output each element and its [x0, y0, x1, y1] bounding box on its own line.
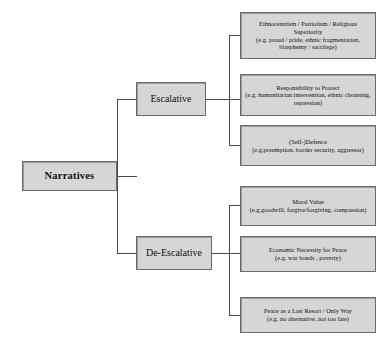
- connector-deescalative-stub: [212, 253, 230, 254]
- leaf-example: (e.g.goodwill, forgive/forgiving, compas…: [244, 206, 372, 214]
- leaf-example: (e.g.preemption, border security, aggres…: [244, 146, 372, 154]
- leaf-title: (Self-)Defence: [244, 138, 372, 146]
- node-root-label: Narratives: [23, 170, 116, 182]
- narratives-tree-diagram: Narratives Escalative De-Escalative Ethn…: [0, 0, 382, 347]
- node-deescalative-label: De-Escalative: [137, 247, 211, 259]
- node-leaf-ethnocentrism[interactable]: Ethnocentrism / Patriotism / Religious S…: [240, 12, 376, 59]
- leaf-title: Economic Necessity for Peace: [244, 246, 372, 254]
- leaf-title: Ethnocentrism / Patriotism / Religious S…: [244, 20, 372, 35]
- leaf-example: (e.g. no alternative, not too late): [244, 315, 372, 323]
- connector-deescalative-trunk: [229, 205, 230, 315]
- node-leaf-responsibility-to-protect[interactable]: Responsibility to Protect (e.g. humanita…: [240, 74, 376, 116]
- leaf-title: Responsibility to Protect: [244, 84, 372, 92]
- leaf-title: Peace as a Last Resort / Only Way: [244, 307, 372, 315]
- leaf-title: Moral Value: [244, 198, 372, 206]
- connector-trunk-to-deescalative: [117, 253, 137, 254]
- connector-escalative-trunk: [229, 35, 230, 145]
- node-leaf-peace-last-resort[interactable]: Peace as a Last Resort / Only Way (e.g. …: [240, 297, 376, 333]
- node-root-narratives[interactable]: Narratives: [22, 161, 117, 191]
- node-escalative-label: Escalative: [137, 93, 205, 105]
- connector-root-trunk: [117, 99, 118, 253]
- connector-root-stub: [117, 176, 137, 177]
- leaf-example: (e.g. proud / pride, ethnic fragmentatio…: [244, 36, 372, 51]
- node-leaf-economic-necessity[interactable]: Economic Necessity for Peace (e.g. war b…: [240, 236, 376, 272]
- leaf-example: (e.g. humanitarian intervention, ethnic …: [244, 91, 372, 106]
- connector-trunk-to-escalative: [117, 99, 137, 100]
- node-deescalative[interactable]: De-Escalative: [136, 236, 212, 270]
- node-leaf-self-defence[interactable]: (Self-)Defence (e.g.preemption, border s…: [240, 125, 376, 166]
- connector-escalative-stub: [206, 99, 230, 100]
- node-leaf-moral-value[interactable]: Moral Value (e.g.goodwill, forgive/forgi…: [240, 186, 376, 226]
- leaf-example: (e.g. war bonds , poverty): [244, 254, 372, 262]
- node-escalative[interactable]: Escalative: [136, 82, 206, 116]
